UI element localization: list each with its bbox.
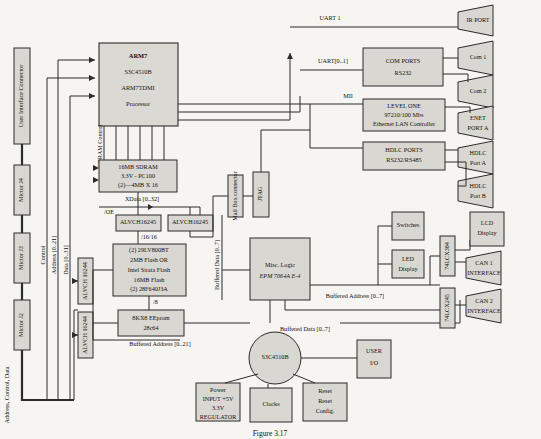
flash-line-4: 16MB Flash	[134, 276, 166, 283]
processor-line-4: Processor	[126, 100, 150, 107]
figure-caption: Figure 3.17	[253, 429, 288, 438]
hdlc-port-a-line-1: HDLC	[470, 149, 487, 156]
enet-port-line-2: PORT A	[467, 124, 489, 131]
processor-line-3: ARM7TDMI	[121, 84, 154, 91]
lcd-display-line-2: Display	[477, 229, 497, 236]
ethernet-line-1: LEVEL ONE	[387, 102, 421, 109]
hdlc-port-a-line-2: Port A	[470, 159, 487, 166]
buffer-alvch16245-b-label: ALVCH16245	[172, 218, 208, 225]
processor-line-1: ARM7	[129, 52, 148, 59]
can2-interface	[466, 289, 501, 323]
clocks-label: Clocks	[262, 400, 280, 407]
com-ports-block	[363, 48, 443, 86]
com1-port-label: Com 1	[470, 53, 487, 60]
can1-interface	[466, 251, 501, 285]
enet-port-a	[458, 106, 493, 140]
buffered-address-21-label: Buffered Address [0..21]	[129, 340, 190, 347]
ethernet-line-3: Ethernet LAN Controller	[373, 120, 435, 127]
reset-line-1: Reset	[318, 387, 332, 394]
mictor-j4-label: Mictor J4	[17, 178, 24, 202]
eeprom-line-1: 8KX8 EEprom	[132, 314, 169, 321]
enet-port-line-1: ENET	[470, 114, 486, 121]
buffered-address-7-label: Buffered Address [0..7]	[326, 292, 384, 299]
xdata-bus-label: XData [0..32]	[125, 195, 159, 202]
mail-box-connector-label: Mail Box connector	[231, 171, 238, 221]
misc-logic-block	[250, 238, 310, 300]
flash-line-1: (2) 29LV800BT	[129, 246, 169, 254]
control-bus-label: Control	[39, 245, 46, 264]
hdlc-ports-line-2: RS232/RS485	[386, 156, 421, 163]
bus-8-a-label: /8	[153, 298, 158, 305]
ethernet-line-2: 97210/100 Mbs	[384, 111, 424, 118]
hdlc-port-a	[458, 141, 493, 174]
com-ports-line-1: COM PORTS	[386, 57, 421, 64]
user-interface-connector-label: User Interface Connector	[17, 65, 24, 128]
mictor-j2-label: Mictor J2	[17, 313, 24, 337]
buffer-alvch16244-b-label: ALVCH 16244	[81, 316, 88, 354]
can1-line-2: INTERFACE	[467, 269, 501, 276]
led-display-line-2: Display	[398, 265, 418, 272]
power-line-3: 3.3V	[212, 404, 225, 411]
processor-line-2: S3C4510B	[124, 68, 151, 75]
flash-line-2: 2MB Flash OR	[130, 256, 169, 263]
buffer-alvch16244-a-label: ALVCH 16244	[81, 262, 88, 300]
uart01-label: UART[0..1]	[318, 57, 348, 64]
com2-port-label: Com 2	[470, 87, 487, 94]
misc-logic-line-2: EPM 7064A E-4	[259, 272, 301, 279]
mii-label: MII	[343, 92, 353, 99]
jtag-label: JTAG	[256, 186, 263, 201]
hdlc-port-b-line-2: Port B	[470, 192, 486, 199]
power-line-1: Power	[210, 386, 226, 393]
oe-label: /OE	[104, 208, 114, 215]
s3c4510b-label: S3C4510B	[261, 353, 288, 360]
reset-line-2: Reset	[318, 397, 332, 404]
power-line-2: INPUT +5V	[203, 395, 234, 402]
buffer-alvch16245-a-label: ALVCH16245	[120, 218, 156, 225]
can1-line-1: CAN 1	[475, 259, 493, 266]
lcd-display-line-1: LCD	[481, 219, 494, 226]
buffered-data-7-label: Buffered Data [0..7]	[280, 325, 330, 332]
data-bus-label: Data [0..31]	[62, 245, 69, 275]
hdlc-port-b-line-1: HDLC	[470, 182, 487, 189]
sdram-line-2: 3.3V - PC100	[121, 172, 155, 179]
driver-74lcx384-label: 74LCX384	[443, 242, 450, 270]
ir-port-label: IR PORT	[466, 16, 489, 23]
address-control-data-label: Address, Control, Data	[3, 366, 10, 423]
user-io-line-1: USER	[366, 347, 383, 354]
led-display-block	[392, 250, 424, 278]
com-ports-line-2: RS232	[395, 69, 412, 76]
mictor-j3-label: Mictor J3	[17, 246, 24, 270]
user-io-line-2: I/O	[370, 359, 379, 366]
sdram-line-1: 16MB SDRAM	[118, 163, 158, 170]
reset-line-3: Config.	[316, 407, 335, 414]
block-diagram-canvas: User Interface Connector Mictor J4 Micto…	[0, 0, 541, 439]
flash-line-5: (2) 28F640J3A	[130, 285, 168, 293]
bus-16-16-label: /16/16	[141, 233, 157, 240]
eeprom-line-2: 28c64	[143, 324, 158, 331]
hdlc-port-b	[458, 174, 493, 208]
driver-74lcx245-label: 74LCX245	[443, 294, 450, 322]
flash-line-3: Intel Strata Flash	[128, 266, 171, 273]
can2-line-1: CAN 2	[475, 297, 493, 304]
led-display-line-1: LED	[402, 255, 415, 262]
buffered-data-7-vertical-label: Buffered Data [0..7]	[213, 240, 220, 290]
uart1-label: UART 1	[320, 14, 341, 21]
sdram-line-3: (2)—4MB X 16	[118, 181, 158, 189]
misc-logic-line-1: Misc. Logic	[265, 261, 295, 268]
power-line-4: REGULATOR	[200, 413, 238, 420]
hdlc-ports-line-1: HDLC PORTS	[385, 146, 423, 153]
address-bus-label: Address [0..21]	[50, 236, 57, 274]
can2-line-2: INTERFACE	[467, 307, 501, 314]
switches-label: Switches	[397, 221, 420, 228]
